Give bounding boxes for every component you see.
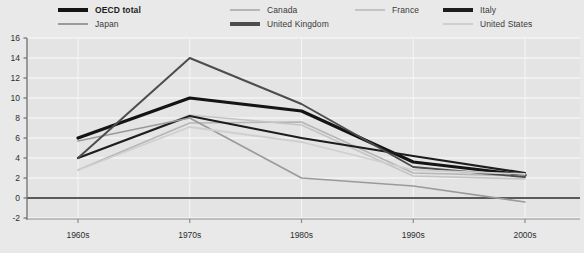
legend-item-label: Canada	[267, 5, 297, 15]
y-axis-tick-label: 10	[11, 93, 21, 103]
y-axis-tick-label: 12	[11, 73, 21, 83]
chart-legend: OECD totalCanadaFranceItalyJapanUnited K…	[0, 0, 584, 32]
legend-item-canada[interactable]: Canada	[230, 3, 297, 17]
legend-item-label: United Kingdom	[267, 19, 329, 29]
chart-plot-area: -20246810121416 1960s1970s1980s1990s2000…	[0, 32, 584, 253]
legend-color-swatch	[230, 22, 260, 26]
legend-item-label: OECD total	[95, 5, 141, 15]
y-axis-tick-label: 2	[15, 173, 20, 183]
legend-item-oecd-total[interactable]: OECD total	[58, 3, 141, 17]
y-axis-tick-labels: -20246810121416	[11, 33, 21, 223]
legend-item-japan[interactable]: Japan	[58, 17, 119, 31]
legend-item-label: Italy	[480, 5, 496, 15]
legend-item-label: United States	[480, 19, 532, 29]
legend-color-swatch	[443, 23, 473, 25]
legend-color-swatch	[58, 23, 88, 25]
x-axis-tick-label: 1990s	[402, 230, 425, 240]
legend-item-united-states[interactable]: United States	[443, 17, 532, 31]
legend-color-swatch	[58, 8, 88, 12]
legend-color-swatch	[355, 9, 385, 11]
x-axis-tick-label: 1960s	[66, 230, 89, 240]
legend-color-swatch	[443, 8, 473, 12]
legend-item-label: France	[392, 5, 419, 15]
x-axis-tick-label: 2000s	[513, 230, 536, 240]
legend-item-france[interactable]: France	[355, 3, 419, 17]
y-axis-tick-label: 6	[15, 133, 20, 143]
y-axis-tick-label: 4	[15, 153, 20, 163]
x-axis-tick-label: 1970s	[178, 230, 201, 240]
legend-item-united-kingdom[interactable]: United Kingdom	[230, 17, 329, 31]
x-axis-tick-label: 1980s	[290, 230, 313, 240]
legend-item-label: Japan	[95, 19, 119, 29]
y-axis-tick-label: 8	[15, 113, 20, 123]
y-axis-tick-label: 16	[11, 33, 21, 43]
inflation-by-decade-chart: OECD totalCanadaFranceItalyJapanUnited K…	[0, 0, 584, 253]
chart-svg: -20246810121416 1960s1970s1980s1990s2000…	[0, 32, 584, 253]
legend-item-italy[interactable]: Italy	[443, 3, 496, 17]
y-axis-tick-label: 0	[15, 193, 20, 203]
y-axis-tick-label: -2	[12, 213, 20, 223]
x-axis-tick-labels: 1960s1970s1980s1990s2000s	[66, 230, 536, 240]
y-axis-tick-label: 14	[11, 53, 21, 63]
legend-color-swatch	[230, 9, 260, 11]
